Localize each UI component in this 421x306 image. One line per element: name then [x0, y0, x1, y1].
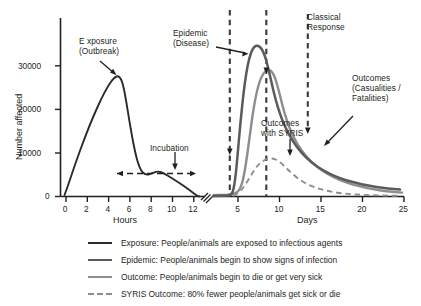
legend-item-epidemic: Epidemic: People/animals begin to show s… [88, 253, 337, 266]
classical-marker-arrowhead [305, 128, 311, 134]
exposure-annotation: E xposure (Outbreak) [79, 36, 119, 56]
epidemic-marker-arrowhead [227, 149, 233, 155]
epidemic-leader-arrow [216, 47, 249, 56]
y-tick-label-20000: 20000 [18, 104, 41, 114]
hours-tick-label-12: 12 [188, 204, 197, 214]
days-tick-label-20: 20 [357, 204, 366, 214]
hours-tick-marks [66, 197, 194, 203]
hours-tick-label-0: 0 [63, 204, 68, 214]
legend-line-outcome-icon [88, 270, 112, 283]
y-tick-label-0: 0 [45, 191, 50, 201]
chart-plot-area: Number affected 30000 20000 10000 0 0 2 … [0, 0, 421, 230]
classical-response-line2: Response [307, 22, 345, 32]
hours-axis-title: Hours [113, 215, 137, 225]
legend-item-outcome: Outcome: People/animals begin to die or … [88, 270, 322, 283]
exposure-leader-arrow [100, 61, 117, 75]
hours-tick-label-6: 6 [127, 204, 132, 214]
hours-tick-label-10: 10 [167, 204, 176, 214]
legend-label-exposure: Exposure: People/animals are exposed to … [121, 238, 342, 248]
classical-response-line1: Classical [307, 12, 345, 22]
y-tick-marks [55, 66, 61, 197]
days-tick-label-25: 25 [399, 204, 408, 214]
outcomes-annotation: Outcomes (Casualities / Fatalities) [352, 73, 401, 103]
days-tick-label-5: 5 [235, 204, 240, 214]
legend-label-outcome: Outcome: People/animals begin to die or … [121, 272, 322, 282]
epidemic-timeline-figure: Number affected 30000 20000 10000 0 0 2 … [0, 0, 421, 306]
chart-svg [0, 0, 421, 230]
y-tick-label-10000: 10000 [18, 148, 41, 158]
incubation-annotation: Incubation [150, 143, 189, 153]
epidemic-annotation-line2: (Disease) [173, 38, 209, 48]
incubation-leader-arrow [172, 152, 178, 170]
outcomes-leader-arrow [324, 116, 353, 146]
chart-legend: Exposure: People/animals are exposed to … [0, 232, 421, 306]
outcomes-annotation-line3: Fatalities) [352, 93, 401, 103]
syris-annotation-line1: Outcomes [261, 118, 303, 128]
axis-break-icon [201, 193, 213, 203]
hours-tick-label-8: 8 [148, 204, 153, 214]
days-axis-title: Days [297, 215, 318, 225]
hours-tick-label-2: 2 [84, 204, 89, 214]
days-tick-label-15: 15 [316, 204, 325, 214]
classical-response-annotation: Classical Response [307, 12, 345, 32]
outcomes-annotation-line1: Outcomes [352, 73, 401, 83]
days-tick-marks [238, 197, 404, 203]
outcomes-syris-annotation: Outcomes with SYRIS [261, 118, 303, 138]
outcomes-annotation-line2: (Casualities / [352, 83, 401, 93]
legend-label-epidemic: Epidemic: People/animals begin to show s… [121, 255, 337, 265]
legend-item-syris-outcome: SYRIS Outcome: 80% fewer people/animals … [88, 287, 340, 300]
hours-tick-label-4: 4 [105, 204, 110, 214]
legend-label-syris-outcome: SYRIS Outcome: 80% fewer people/animals … [121, 289, 340, 299]
legend-line-syris-icon [88, 287, 112, 300]
epidemic-annotation: Epidemic (Disease) [173, 28, 209, 48]
days-tick-label-10: 10 [274, 204, 283, 214]
epidemic-annotation-line1: Epidemic [173, 28, 209, 38]
series-exposure [65, 76, 200, 196]
legend-line-exposure-icon [88, 236, 112, 249]
legend-line-epidemic-icon [88, 253, 112, 266]
legend-item-exposure: Exposure: People/animals are exposed to … [88, 236, 342, 249]
y-tick-label-30000: 30000 [18, 61, 41, 71]
exposure-annotation-line1: E xposure [79, 36, 119, 46]
syris-annotation-line2: with SYRIS [261, 128, 303, 138]
exposure-annotation-line2: (Outbreak) [79, 46, 119, 56]
